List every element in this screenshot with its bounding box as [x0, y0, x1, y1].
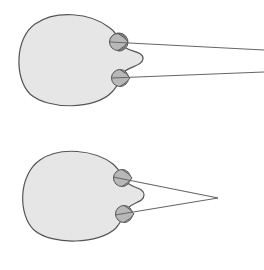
- sight-line-upper: [110, 42, 264, 50]
- head-outline: [23, 151, 144, 241]
- sight-line-lower: [112, 72, 264, 78]
- head-parallel-gaze: [19, 15, 264, 106]
- vergence-diagram: [0, 0, 264, 270]
- head-outline: [19, 15, 143, 106]
- head-converging-gaze: [23, 151, 218, 241]
